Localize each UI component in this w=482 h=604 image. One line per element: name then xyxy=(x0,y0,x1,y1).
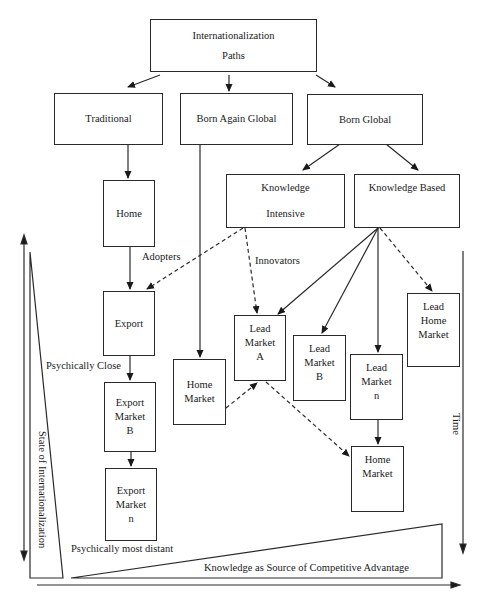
box-knowledge-intensive: Knowledge Intensive xyxy=(226,174,345,228)
time-axis-arrowhead xyxy=(460,544,466,553)
lead-home-market-line2: Home xyxy=(421,314,447,328)
knowledge-intensive-line2: Intensive xyxy=(266,207,305,221)
born-global-home-market-line2: Market xyxy=(362,467,392,481)
root-label-line1: Internationalization xyxy=(192,29,274,43)
box-lead-home-market: Lead Home Market xyxy=(407,293,460,367)
state-axis-down-arrowhead xyxy=(21,551,27,560)
label-psychically-close: Psychically Close xyxy=(46,360,121,372)
box-lead-market-a: Lead Market A xyxy=(234,315,286,381)
born-again-home-market-line2: Market xyxy=(184,392,214,406)
lead-market-a-line3: A xyxy=(256,350,264,364)
label-time: Time xyxy=(451,413,462,435)
box-born-global: Born Global xyxy=(307,94,423,145)
label-knowledge-advantage: Knowledge as Source of Competitive Advan… xyxy=(204,562,409,574)
lead-market-a-line2: Market xyxy=(245,336,275,350)
arrow-born-global-to-kb xyxy=(386,144,418,170)
traditional-label: Traditional xyxy=(85,112,131,126)
box-lead-market-n: Lead Market n xyxy=(350,354,403,420)
box-born-again-global: Born Again Global xyxy=(180,93,293,145)
box-export-market-b: Export Market B xyxy=(104,382,156,452)
box-born-again-home-market: Home Market xyxy=(173,359,226,425)
born-global-label: Born Global xyxy=(339,113,391,127)
arrow-kb-to-lead-a xyxy=(278,228,378,314)
born-again-home-market-line1: Home xyxy=(187,378,213,392)
box-export: Export xyxy=(103,291,155,356)
box-born-global-home-market: Home Market xyxy=(351,446,404,512)
export-market-n-line2: Market xyxy=(116,498,146,512)
export-label: Export xyxy=(115,317,144,331)
born-global-home-market-line1: Home xyxy=(365,453,391,467)
lead-market-b-line3: B xyxy=(316,370,323,384)
lead-home-market-line1: Lead xyxy=(423,300,444,314)
knowledge-based-label: Knowledge Based xyxy=(369,181,446,195)
lead-market-n-line3: n xyxy=(374,389,379,403)
export-market-b-line2: Market xyxy=(115,410,145,424)
born-again-global-label: Born Again Global xyxy=(197,112,277,126)
label-innovators: Innovators xyxy=(255,255,300,267)
arrow-root-to-born-global xyxy=(316,75,335,87)
label-adopters: Adopters xyxy=(142,251,181,263)
box-home: Home xyxy=(103,180,155,247)
arrow-root-to-traditional xyxy=(128,75,160,87)
dashed-kb-to-lead-home xyxy=(380,228,432,291)
lead-market-n-line1: Lead xyxy=(366,361,387,375)
lead-market-n-line2: Market xyxy=(361,375,391,389)
export-market-n-line1: Export xyxy=(117,484,146,498)
knowledge-intensive-line1: Knowledge xyxy=(261,181,309,195)
box-export-market-n: Export Market n xyxy=(105,468,157,541)
state-axis-up-arrowhead xyxy=(21,235,27,244)
arrow-kb-to-lead-b xyxy=(322,228,378,333)
internationalization-paths-diagram: Internationalization Paths Traditional B… xyxy=(0,0,482,604)
lead-market-a-line1: Lead xyxy=(250,322,271,336)
label-psychically-most-distant: Psychically most distant xyxy=(71,543,173,555)
dashed-home-market-to-lead-a xyxy=(226,383,257,408)
box-traditional: Traditional xyxy=(54,93,163,145)
label-state-of-internationalization: State of Internationalization xyxy=(37,431,48,548)
export-market-n-line3: n xyxy=(128,512,133,526)
lead-market-b-line2: Market xyxy=(304,356,334,370)
dashed-ki-to-lead-a xyxy=(245,228,257,313)
box-knowledge-based: Knowledge Based xyxy=(354,174,460,228)
bottom-axis-arrowhead xyxy=(451,582,460,588)
arrow-born-global-to-ki xyxy=(303,144,340,170)
export-market-b-line1: Export xyxy=(116,396,145,410)
box-lead-market-b: Lead Market B xyxy=(293,335,346,401)
lead-home-market-line3: Market xyxy=(418,328,448,342)
box-internationalization-paths: Internationalization Paths xyxy=(150,19,317,72)
lead-market-b-line1: Lead xyxy=(309,342,330,356)
export-market-b-line3: B xyxy=(126,424,133,438)
root-label-line2: Paths xyxy=(222,49,245,63)
home-label: Home xyxy=(116,207,142,221)
